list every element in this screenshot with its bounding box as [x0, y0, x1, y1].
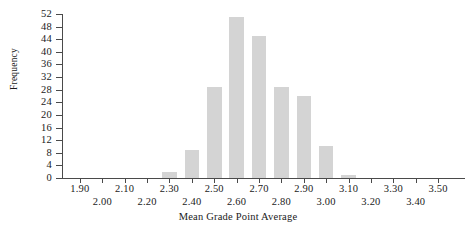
x-tick-mark — [326, 179, 327, 183]
y-tick-label: 20 — [18, 109, 52, 120]
y-tick-mark — [56, 90, 62, 91]
bar-3.00 — [319, 146, 334, 178]
y-axis-line — [62, 14, 63, 178]
y-tick-label: 16 — [18, 122, 52, 133]
y-tick-label: 24 — [18, 96, 52, 107]
y-tick-mark — [56, 128, 62, 129]
y-tick-label: 0 — [18, 172, 52, 183]
x-tick-label-1.90: 1.90 — [58, 183, 102, 195]
bar-2.90 — [297, 96, 312, 178]
y-tick-mark — [56, 39, 62, 40]
y-tick-mark — [56, 178, 62, 179]
x-tick-label-3.10: 3.10 — [327, 183, 371, 195]
x-tick-mark — [416, 179, 417, 183]
y-tick-label: 8 — [18, 147, 52, 158]
y-tick-mark — [56, 52, 62, 53]
x-tick-mark — [237, 179, 238, 183]
bar-2.80 — [274, 87, 289, 178]
x-tick-label-2.60: 2.60 — [215, 196, 259, 208]
x-tick-label-2.00: 2.00 — [80, 196, 124, 208]
x-axis-title: Mean Grade Point Average — [0, 211, 476, 222]
x-tick-mark — [371, 179, 372, 183]
y-tick-mark — [56, 153, 62, 154]
x-tick-label-2.10: 2.10 — [103, 183, 147, 195]
x-tick-label-3.20: 3.20 — [349, 196, 393, 208]
y-tick-mark — [56, 64, 62, 65]
bar-2.50 — [207, 87, 222, 178]
x-tick-label-3.30: 3.30 — [371, 183, 415, 195]
x-tick-label-2.70: 2.70 — [237, 183, 281, 195]
y-tick-mark — [56, 115, 62, 116]
histogram-figure: Frequency 0481216202428323640444852 1.90… — [0, 0, 476, 236]
x-tick-label-3.40: 3.40 — [394, 196, 438, 208]
y-tick-label: 40 — [18, 46, 52, 57]
y-tick-label: 32 — [18, 71, 52, 82]
x-tick-label-2.50: 2.50 — [192, 183, 236, 195]
y-tick-mark — [56, 77, 62, 78]
x-axis-line — [62, 178, 465, 179]
y-tick-mark — [56, 165, 62, 166]
bar-2.40 — [185, 150, 200, 178]
x-tick-mark — [102, 179, 103, 183]
x-tick-label-3.00: 3.00 — [304, 196, 348, 208]
y-tick-label: 48 — [18, 21, 52, 32]
x-tick-label-2.20: 2.20 — [125, 196, 169, 208]
y-tick-label: 36 — [18, 58, 52, 69]
x-tick-mark — [281, 179, 282, 183]
bar-2.70 — [252, 36, 267, 178]
y-tick-mark — [56, 14, 62, 15]
y-tick-label: 28 — [18, 84, 52, 95]
y-tick-label: 44 — [18, 33, 52, 44]
x-tick-label-2.90: 2.90 — [282, 183, 326, 195]
bar-2.60 — [229, 17, 244, 178]
y-tick-mark — [56, 102, 62, 103]
y-tick-mark — [56, 27, 62, 28]
x-tick-label-2.40: 2.40 — [170, 196, 214, 208]
bar-3.10 — [341, 175, 356, 178]
x-tick-mark — [147, 179, 148, 183]
x-tick-label-2.30: 2.30 — [147, 183, 191, 195]
y-tick-label: 4 — [18, 159, 52, 170]
x-tick-label-2.80: 2.80 — [259, 196, 303, 208]
y-tick-label: 12 — [18, 134, 52, 145]
y-tick-mark — [56, 140, 62, 141]
bar-2.30 — [162, 172, 177, 178]
x-tick-mark — [192, 179, 193, 183]
y-tick-label: 52 — [18, 8, 52, 19]
x-tick-label-3.50: 3.50 — [416, 183, 460, 195]
